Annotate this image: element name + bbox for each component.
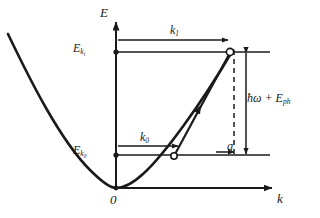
photon-phonon-sub: ph [283, 97, 290, 106]
axis-dot-lower [113, 152, 118, 157]
energy-initial-label: Eki [73, 42, 85, 54]
origin-label: 0 [110, 193, 117, 206]
wavevector-initial-label: k0 [140, 131, 149, 143]
phonon-wavevector-label: q [227, 140, 233, 152]
energy-final-label: Ek0 [73, 144, 86, 156]
photon-phonon-prefix: ħω + [247, 91, 276, 105]
photon-phonon-energy-label: ħω + Eph [247, 92, 290, 104]
photon-phonon-base: E [276, 91, 283, 105]
wavevector-final-label: k1 [170, 24, 179, 36]
axis-dot-upper [113, 49, 118, 54]
origin-dot [114, 186, 119, 191]
diagram-canvas [0, 0, 320, 218]
y-axis-label: E [100, 6, 108, 19]
x-axis-label: k [277, 192, 283, 205]
marker-final-state [226, 48, 233, 55]
marker-initial-state [171, 153, 177, 159]
transition-arrow [174, 49, 232, 156]
energy-final-subsub: 0 [84, 153, 87, 159]
energy-initial-subsub: i [84, 51, 85, 57]
wavevector-final-sub: 1 [175, 29, 179, 38]
energy-band-diagram: E k 0 Eki Ek0 k1 k0 q ħω + Eph [0, 0, 320, 218]
wavevector-initial-sub: 0 [145, 136, 149, 145]
